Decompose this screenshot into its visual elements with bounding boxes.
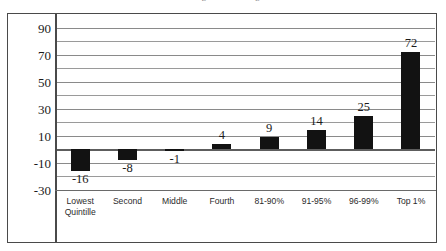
y-axis-tick-neg10: -10 [34,156,51,169]
y-axis-tick-labels: 9070503010-10-30 [8,14,55,242]
bar [307,130,326,149]
bar [118,149,137,160]
category-axis-line [55,190,436,191]
bar [354,116,373,150]
bar-value-label: 9 [243,122,295,135]
y-axis-tick-50: 50 [38,75,51,88]
bar-value-label: -8 [101,162,153,175]
y-axis-tick-10: 10 [38,129,51,142]
chart-title: Share of Congressional Budget Office [0,0,446,1]
x-axis-category-labels: Lowest QuintilleSecondMiddleFourth81-90%… [57,196,435,236]
bar-value-label: -1 [149,153,201,166]
y-axis-tick-90: 90 [38,21,51,34]
bar-value-label: 72 [385,37,437,50]
chart-frame: 9070503010-10-30 -16-8-149142572 Lowest … [7,13,437,243]
bar-value-label: -16 [54,173,106,186]
bar-value-label: 14 [290,115,342,128]
y-axis-tick-30: 30 [38,102,51,115]
bar [401,52,420,149]
y-axis-tick-neg30: -30 [34,184,51,197]
chart-title-clip: Share of Congressional Budget Office [0,0,446,3]
bar [260,137,279,149]
bar-value-label: 4 [196,129,248,142]
y-axis-tick-70: 70 [38,48,51,61]
bars-layer: -16-8-149142572 [57,14,435,190]
x-axis-label-top-1: Top 1% [381,196,441,207]
bar-value-label: 25 [338,101,390,114]
bar [212,144,231,149]
bar [71,149,90,171]
plot-area: -16-8-149142572 [57,14,435,190]
